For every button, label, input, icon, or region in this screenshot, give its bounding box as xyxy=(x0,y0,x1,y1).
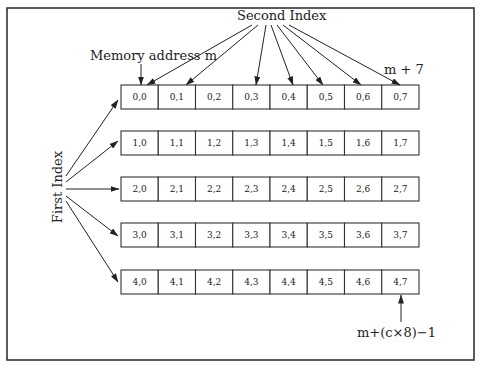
array-cell-label: 4,5 xyxy=(319,277,334,287)
array-row-4: 4,04,14,24,34,44,54,64,7 xyxy=(121,270,419,294)
array-layout-diagram: 0,00,10,20,30,40,50,60,71,01,11,21,31,41… xyxy=(0,0,483,369)
array-cell-label: 1,3 xyxy=(244,138,259,148)
second-index-label: Second Index xyxy=(237,8,327,23)
array-cell-label: 2,7 xyxy=(393,184,408,194)
array-cell-label: 3,5 xyxy=(319,230,334,240)
memory-address-label: Memory address m xyxy=(90,48,217,63)
array-cell-label: 3,1 xyxy=(170,230,184,240)
array-rows: 0,00,10,20,30,40,50,60,71,01,11,21,31,41… xyxy=(121,85,419,294)
first-index-arrow xyxy=(66,141,118,182)
array-cell-label: 2,1 xyxy=(170,184,184,194)
array-cell-label: 0,5 xyxy=(319,92,334,102)
array-row-0: 0,00,10,20,30,40,50,60,7 xyxy=(121,85,419,109)
array-cell-label: 2,2 xyxy=(207,184,221,194)
second-index-arrow xyxy=(283,25,361,85)
array-cell-label: 0,4 xyxy=(281,92,296,102)
array-cell-label: 4,0 xyxy=(132,277,147,287)
array-cell-label: 1,6 xyxy=(356,138,371,148)
array-cell-label: 1,2 xyxy=(207,138,221,148)
array-cell-label: 0,3 xyxy=(244,92,259,102)
end-of-row-label: m + 7 xyxy=(384,62,424,77)
array-cell-label: 0,0 xyxy=(132,92,147,102)
array-cell-label: 4,7 xyxy=(393,277,408,287)
array-cell-label: 3,3 xyxy=(244,230,259,240)
array-cell-label: 1,7 xyxy=(393,138,408,148)
array-cell-label: 1,5 xyxy=(319,138,334,148)
first-index-arrow xyxy=(66,196,118,236)
array-row-2: 2,02,12,22,32,42,52,62,7 xyxy=(121,177,419,201)
array-cell-label: 1,0 xyxy=(132,138,147,148)
array-cell-label: 2,5 xyxy=(319,184,334,194)
array-cell-label: 4,1 xyxy=(170,277,184,287)
array-row-1: 1,01,11,21,31,41,51,61,7 xyxy=(121,131,419,155)
array-cell-label: 3,2 xyxy=(207,230,221,240)
diagram-canvas: 0,00,10,20,30,40,50,60,71,01,11,21,31,41… xyxy=(0,0,483,369)
array-cell-label: 2,6 xyxy=(356,184,371,194)
array-cell-label: 2,4 xyxy=(281,184,296,194)
second-index-arrow xyxy=(277,25,323,85)
array-cell-label: 3,6 xyxy=(356,230,371,240)
array-cell-label: 1,4 xyxy=(281,138,296,148)
array-cell-label: 0,2 xyxy=(207,92,221,102)
array-cell-label: 4,4 xyxy=(281,277,296,287)
array-cell-label: 3,7 xyxy=(393,230,408,240)
array-row-3: 3,03,13,23,33,43,53,63,7 xyxy=(121,223,419,247)
last-address-label: m+(c×8)−1 xyxy=(357,325,436,340)
first-index-label: First Index xyxy=(50,150,65,223)
array-cell-label: 3,0 xyxy=(132,230,147,240)
array-cell-label: 4,2 xyxy=(207,277,221,287)
array-cell-label: 0,1 xyxy=(170,92,184,102)
array-cell-label: 1,1 xyxy=(170,138,184,148)
array-cell-label: 4,3 xyxy=(244,277,259,287)
second-index-arrow xyxy=(256,25,266,85)
second-index-arrow xyxy=(271,25,293,85)
array-cell-label: 2,3 xyxy=(244,184,259,194)
array-cell-label: 0,6 xyxy=(356,92,371,102)
array-cell-label: 3,4 xyxy=(281,230,296,240)
array-cell-label: 4,6 xyxy=(356,277,371,287)
first-index-arrow xyxy=(66,201,118,282)
array-cell-label: 2,0 xyxy=(132,184,147,194)
first-index-arrow xyxy=(66,100,118,176)
array-cell-label: 0,7 xyxy=(393,92,408,102)
